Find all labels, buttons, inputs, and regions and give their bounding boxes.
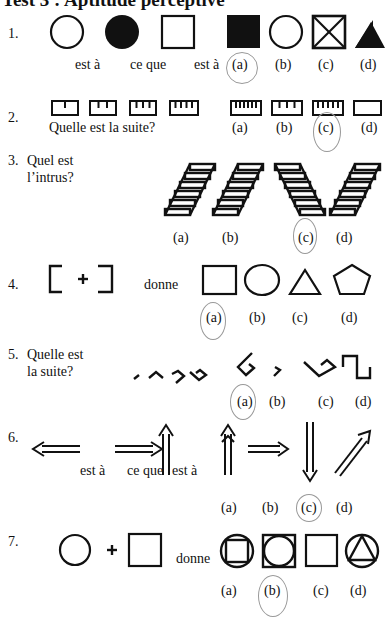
relation-text: est à	[75, 57, 100, 73]
ruler-box-icon	[90, 101, 116, 115]
option-c[interactable]: (c)	[292, 310, 308, 326]
double-arrow-right-icon	[115, 442, 162, 456]
option-b[interactable]: (b)	[249, 310, 265, 326]
plus-icon	[78, 274, 88, 284]
option-c-staircase-reversed-icon	[275, 164, 325, 215]
option-d-pentagon-icon	[334, 265, 370, 294]
option-d-double-arrow-diagonal-icon	[335, 431, 370, 476]
relation-text: donne	[176, 551, 210, 567]
option-c-crossed-square-icon	[313, 16, 345, 48]
question-prompt: Quelle est la suite?	[49, 120, 155, 136]
option-c-ruler-icon	[313, 101, 343, 115]
ruler-box-icon	[170, 101, 198, 115]
right-bracket-icon	[98, 266, 112, 292]
relation-text: donne	[144, 277, 178, 293]
square-outline-icon	[129, 534, 161, 566]
option-b-double-arrow-right-icon	[248, 442, 288, 456]
option-c-triangle-icon	[290, 270, 320, 294]
option-c-spiral-icon	[304, 360, 335, 376]
ruler-box-icon	[130, 101, 156, 115]
option-a-spiral-icon	[238, 353, 254, 375]
option-a-staircase-icon	[165, 164, 215, 215]
option-a-double-arrow-up-icon	[221, 425, 235, 475]
plus-icon	[107, 545, 117, 555]
option-d[interactable]: (d)	[360, 57, 376, 73]
left-bracket-icon	[50, 266, 62, 292]
option-b-staircase-icon	[213, 164, 263, 215]
relation-text: est à	[80, 463, 105, 479]
option-d[interactable]: (d)	[341, 310, 357, 326]
option-c[interactable]: (c)	[301, 500, 317, 516]
question-4-figures	[0, 262, 385, 312]
option-b[interactable]: (b)	[269, 394, 285, 410]
option-d[interactable]: (d)	[336, 230, 352, 246]
option-b-circle-icon	[245, 265, 279, 295]
option-c[interactable]: (c)	[313, 583, 329, 599]
question-1-figures	[0, 0, 385, 60]
question-6-figures	[0, 420, 385, 500]
option-d-triangle-in-circle-icon	[346, 535, 378, 567]
option-a[interactable]: (a)	[173, 230, 189, 246]
option-a-ruler-icon	[231, 101, 261, 115]
option-d[interactable]: (d)	[350, 583, 366, 599]
option-c[interactable]: (c)	[298, 230, 314, 246]
option-a[interactable]: (a)	[221, 500, 237, 516]
circle-filled-icon	[105, 15, 139, 49]
relation-text: ce que	[130, 57, 166, 73]
option-d-spiral-icon	[343, 356, 370, 378]
option-b[interactable]: (b)	[264, 583, 280, 599]
relation-text: est à	[172, 463, 197, 479]
option-a[interactable]: (a)	[206, 310, 222, 326]
option-c-double-arrow-down-icon	[303, 422, 317, 481]
option-d[interactable]: (d)	[336, 500, 352, 516]
option-a[interactable]: (a)	[232, 120, 248, 136]
option-b[interactable]: (b)	[262, 500, 278, 516]
option-b-spiral-icon	[274, 367, 280, 376]
circle-outline-icon	[51, 16, 83, 48]
relation-text: ce que	[127, 463, 163, 479]
option-b[interactable]: (b)	[275, 57, 291, 73]
option-c[interactable]: (c)	[318, 57, 334, 73]
question-3-figures	[0, 160, 385, 230]
option-a-square-filled-icon	[227, 15, 260, 48]
option-b-ruler-icon	[272, 101, 302, 115]
option-d[interactable]: (d)	[355, 394, 371, 410]
option-b[interactable]: (b)	[276, 120, 292, 136]
option-a[interactable]: (a)	[232, 57, 248, 73]
option-b-circle-icon	[270, 16, 302, 48]
relation-text: est à	[194, 57, 219, 73]
double-arrow-left-icon	[33, 442, 80, 456]
option-c-square-icon	[306, 535, 337, 566]
square-outline-icon	[162, 16, 194, 48]
option-d[interactable]: (d)	[361, 120, 377, 136]
option-a[interactable]: (a)	[221, 583, 237, 599]
option-a-square-in-circle-icon	[221, 535, 253, 567]
option-b-circle-in-square-icon	[263, 535, 295, 567]
option-d-empty-box-icon	[354, 101, 381, 115]
spiral-sequence-icons	[134, 370, 206, 383]
option-a[interactable]: (a)	[237, 394, 253, 410]
option-b[interactable]: (b)	[222, 230, 238, 246]
option-a-square-icon	[203, 266, 236, 294]
option-c[interactable]: (c)	[318, 120, 334, 136]
ruler-box-icon	[52, 101, 78, 115]
circle-outline-icon	[60, 535, 90, 565]
option-c[interactable]: (c)	[318, 394, 334, 410]
option-d-staircase-icon	[330, 164, 380, 215]
